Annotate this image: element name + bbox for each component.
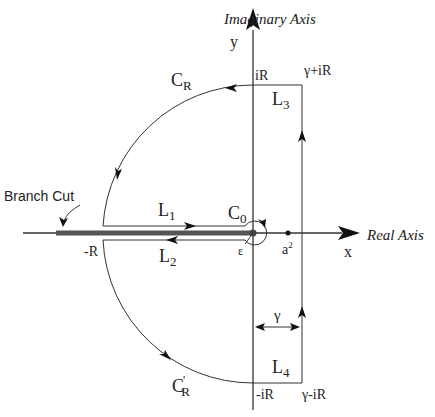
label-iR: iR bbox=[255, 68, 269, 83]
label-minus-R: -R bbox=[84, 244, 99, 259]
label-L1: L1 bbox=[158, 200, 176, 223]
label-L2: L2 bbox=[159, 246, 177, 269]
label-C-R: CR bbox=[171, 70, 192, 93]
branch-cut-arrow-icon bbox=[59, 217, 68, 227]
branch-cut-pointer bbox=[59, 205, 80, 227]
path-L2 bbox=[103, 236, 245, 244]
gamma-width-indicator bbox=[255, 323, 300, 331]
imaginary-axis-label: Imaginary Axis bbox=[223, 11, 316, 27]
C-R-arrow-icon-top bbox=[225, 84, 237, 92]
label-epsilon: ε bbox=[238, 244, 243, 258]
label-gamma-minus-iR: γ-iR bbox=[301, 387, 327, 402]
label-C-R-prime: C'R bbox=[172, 373, 190, 399]
label-L3: L3 bbox=[272, 89, 290, 112]
label-gamma-plus-iR: γ+iR bbox=[303, 63, 332, 78]
label-a-squared: a2 bbox=[282, 240, 293, 257]
label-C0: C0 bbox=[228, 203, 247, 226]
real-axis-label: Real Axis bbox=[366, 227, 424, 243]
label-minus-iR: -iR bbox=[256, 387, 275, 402]
C0-arrow-icon bbox=[258, 219, 266, 228]
x-label: x bbox=[344, 243, 352, 260]
branch-cut-label: Branch Cut bbox=[4, 188, 74, 204]
path-vertical-gamma bbox=[298, 85, 306, 383]
label-L4: L4 bbox=[272, 357, 290, 380]
label-gamma: γ bbox=[273, 307, 281, 323]
branch-cut-band bbox=[56, 231, 252, 236]
y-label: y bbox=[230, 33, 238, 51]
a-squared-point bbox=[286, 231, 291, 236]
contour-diagram: Imaginary Axis y Real Axis x iR γ+iR -iR… bbox=[0, 0, 435, 417]
path-C-R-prime bbox=[103, 240, 253, 383]
path-L1 bbox=[103, 222, 245, 230]
